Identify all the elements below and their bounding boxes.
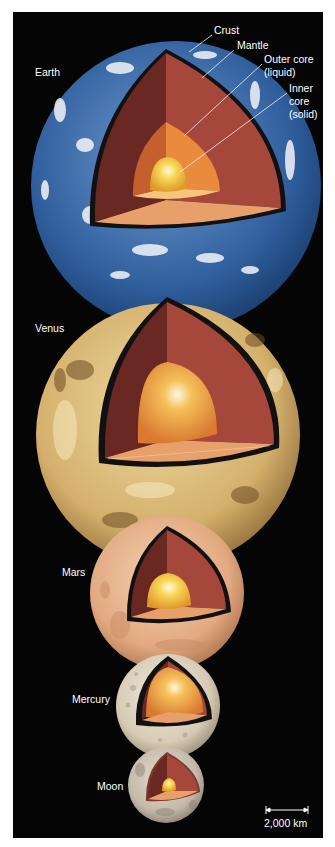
- mercury: [116, 654, 220, 758]
- label-venus: Venus: [35, 322, 64, 335]
- label-mars: Mars: [62, 566, 85, 579]
- planet-interiors-diagram: [0, 0, 335, 847]
- label-outer-core-line1: Outer core: [264, 53, 314, 66]
- label-inner-core-line3: (solid): [289, 108, 318, 121]
- mars: [90, 516, 244, 670]
- label-earth: Earth: [35, 66, 60, 79]
- label-outer-core-line2: (liquid): [264, 66, 296, 79]
- label-moon: Moon: [97, 780, 123, 793]
- scale-bar-label: 2,000 km: [264, 817, 307, 830]
- scale-bar: [266, 806, 308, 814]
- label-mantle: Mantle: [237, 39, 269, 52]
- earth: [31, 35, 321, 331]
- label-inner-core-line2: core: [289, 95, 309, 108]
- label-inner-core-line1: Inner: [289, 82, 313, 95]
- label-crust: Crust: [214, 24, 239, 37]
- label-mercury: Mercury: [72, 693, 110, 706]
- moon: [128, 747, 204, 823]
